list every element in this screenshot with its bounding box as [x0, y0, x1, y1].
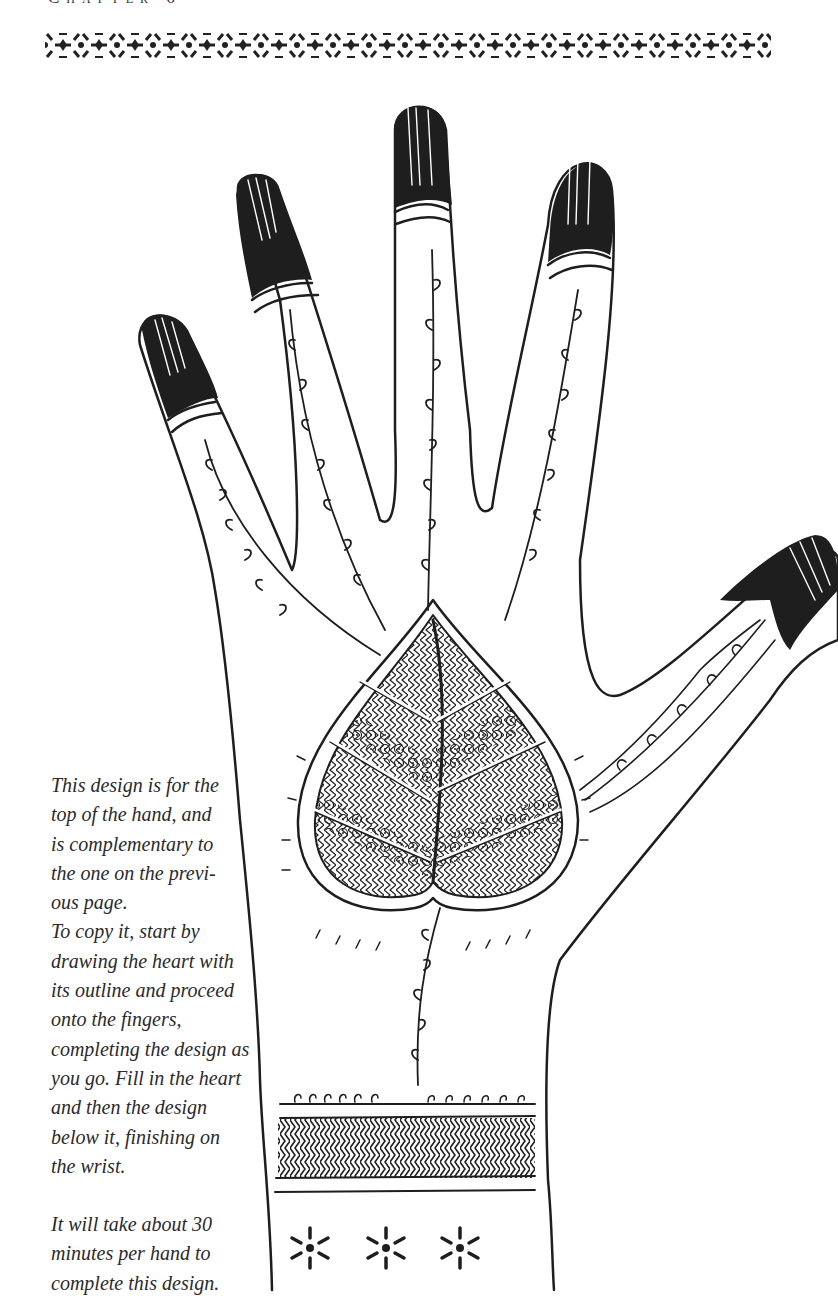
caption-line: the wrist. [51, 1152, 256, 1181]
wrist-chevron-band [275, 1095, 535, 1192]
caption-line: minutes per hand to [51, 1239, 256, 1268]
caption-line: onto the fingers, [51, 1005, 256, 1034]
caption-line: This design is for the [51, 771, 256, 800]
fingertip-caps [142, 106, 838, 650]
wrist-star-flowers [292, 1228, 478, 1268]
caption-line: To copy it, start by [51, 917, 256, 946]
caption-line: is complementary to [51, 830, 256, 859]
caption-line: top of the hand, and [51, 800, 256, 829]
fingernail-stripes [155, 108, 830, 600]
caption-line: below it, finishing on [51, 1123, 256, 1152]
caption-line: its outline and proceed [51, 976, 256, 1005]
caption-line: drawing the heart with [51, 947, 256, 976]
caption-line: completing the design as [51, 1035, 256, 1064]
caption-line: the one on the previ- [51, 859, 256, 888]
heart-leaf-motif [282, 600, 590, 950]
caption-line: and then the design [51, 1093, 256, 1122]
caption-line: complete this design. [51, 1269, 256, 1298]
instruction-caption: This design is for the top of the hand, … [51, 771, 256, 1298]
caption-line: ous page. [51, 888, 256, 917]
caption-line: you go. Fill in the heart [51, 1064, 256, 1093]
caption-line: It will take about 30 [51, 1210, 256, 1239]
paragraph-gap [51, 1181, 256, 1210]
thumb-scallop-vine [580, 620, 775, 812]
